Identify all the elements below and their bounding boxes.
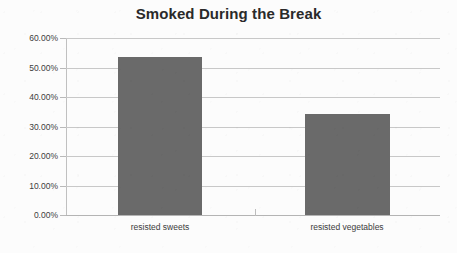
y-axis-tick [60,38,66,39]
bar[interactable] [118,57,202,215]
y-axis-tick-label: 10.00% [6,181,58,191]
y-axis-tick [60,156,66,157]
chart-title: Smoked During the Break [0,5,457,22]
bar-chart: Smoked During the Break 0.00%10.00%20.00… [0,0,457,253]
gridline-0.00 [66,215,440,216]
y-axis-tick [60,127,66,128]
y-axis-tick [60,97,66,98]
plot-area [66,38,440,215]
y-axis-tick [60,186,66,187]
bar[interactable] [305,114,390,215]
y-axis-labels: 0.00%10.00%20.00%30.00%40.00%50.00%60.00… [0,38,58,215]
x-axis-category-label: resisted vegetables [257,222,437,232]
y-axis-tick [60,68,66,69]
y-axis-tick-label: 50.00% [6,63,58,73]
y-axis-tick-label: 30.00% [6,122,58,132]
y-axis-tick-label: 60.00% [6,33,58,43]
y-axis-tick [60,215,66,216]
y-axis-tick-label: 40.00% [6,92,58,102]
y-axis-tick-label: 20.00% [6,151,58,161]
category-divider-tick [255,209,256,216]
gridline-60.00 [66,38,440,39]
x-axis-category-label: resisted sweets [70,222,250,232]
y-axis-tick-label: 0.00% [6,210,58,220]
